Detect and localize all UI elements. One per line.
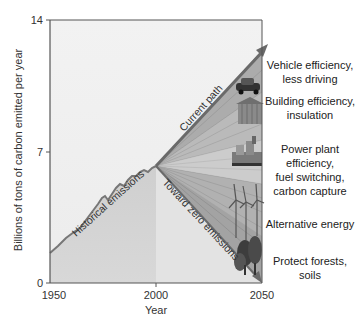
y-tick-label-7: 7 [37,146,43,158]
wedge-label-line: Alternative energy [260,217,360,231]
wedge-label-line: Protect forests, [260,254,360,268]
wedge-label-alternative-energy: Alternative energy [260,217,360,231]
x-tick-label-2050: 2050 [250,289,274,301]
wedge-label-line: fuel switching, [260,170,360,184]
y-axis-title: Billions of tons of carbon emitted per y… [12,48,24,251]
wedge-label-line: insulation [260,108,360,122]
y-tick-label-14: 14 [31,14,43,26]
x-axis-title: Year [145,304,168,316]
wedge-label-line: soils [260,268,360,282]
wedge-label-line: Vehicle efficiency, [260,58,360,72]
wedge-label-line: less driving [260,72,360,86]
wedge-label-line: efficiency, [260,156,360,170]
wedge-label-power-plant: Power plant efficiency, fuel switching, … [260,142,360,198]
x-tick-label-1950: 1950 [42,289,66,301]
wedge-label-line: Building efficiency, [260,94,360,108]
x-tick-label-2000: 2000 [144,289,168,301]
wedge-label-line: Power plant [260,142,360,156]
wedge-label-line: carbon capture [260,184,360,198]
wedge-label-forests: Protect forests, soils [260,254,360,282]
y-tick-label-0: 0 [37,277,43,289]
wedge-label-building: Building efficiency, insulation [260,94,360,122]
wedge-label-vehicle: Vehicle efficiency, less driving [260,58,360,86]
